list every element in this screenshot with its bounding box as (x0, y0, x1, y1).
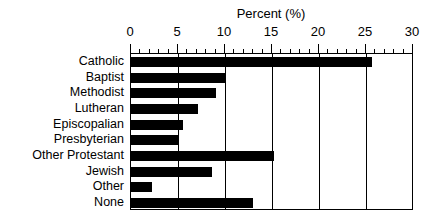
bar (131, 88, 216, 98)
x-tick-major (365, 44, 366, 53)
y-category-label: Presbyterian (0, 132, 127, 146)
x-tick-label: 10 (217, 24, 231, 40)
y-category-label: Other (0, 179, 127, 193)
y-category-label: Lutheran (0, 101, 127, 115)
x-axis-tick-ruler (130, 44, 413, 53)
bar (131, 73, 225, 83)
x-axis-tick-labels: 051015202530 (0, 24, 431, 41)
x-tick-label: 5 (173, 24, 180, 40)
x-tick-label: 0 (126, 24, 133, 40)
bar (131, 120, 183, 130)
bars-layer (131, 54, 412, 209)
y-category-label: Catholic (0, 54, 127, 68)
plot-area (130, 53, 413, 210)
x-tick-major (271, 44, 272, 53)
chart-title: Percent (%) (130, 6, 412, 22)
bar (131, 57, 372, 67)
bar (131, 104, 198, 114)
bar (131, 167, 212, 177)
x-tick-label: 20 (311, 24, 325, 40)
x-tick-label: 30 (405, 24, 419, 40)
y-axis-category-labels: CatholicBaptistMethodistLutheranEpiscopa… (0, 53, 127, 210)
bar (131, 198, 253, 208)
y-category-label: Episcopalian (0, 117, 127, 131)
bar-chart: Percent (%) 051015202530 CatholicBaptist… (0, 0, 431, 224)
y-category-label: None (0, 195, 127, 209)
y-category-label: Baptist (0, 70, 127, 84)
x-tick-major (318, 44, 319, 53)
y-category-label: Jewish (0, 164, 127, 178)
x-tick-major (224, 44, 225, 53)
x-tick-label: 25 (358, 24, 372, 40)
y-category-label: Other Protestant (0, 148, 127, 162)
x-tick-major (177, 44, 178, 53)
x-tick-label: 15 (264, 24, 278, 40)
y-category-label: Methodist (0, 85, 127, 99)
bar (131, 151, 274, 161)
bar (131, 135, 178, 145)
x-tick-major (130, 44, 131, 53)
bar (131, 182, 152, 192)
x-tick-major (412, 44, 413, 53)
